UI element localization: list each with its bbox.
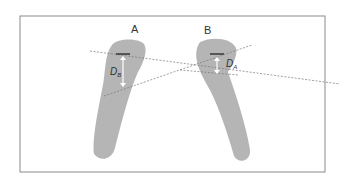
marker-b xyxy=(210,53,224,55)
diagram: A B DB DA xyxy=(0,0,342,183)
frame xyxy=(20,16,325,172)
marker-a xyxy=(116,53,130,55)
label-a: A xyxy=(131,23,139,35)
label-b: B xyxy=(204,24,211,36)
